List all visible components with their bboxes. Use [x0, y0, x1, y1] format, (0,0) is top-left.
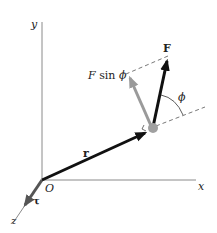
projection-dashed-line [126, 56, 168, 74]
origin-label: O [45, 182, 54, 195]
right-angle-marker [142, 125, 146, 131]
particle [148, 123, 158, 133]
x-axis-label: x [198, 180, 205, 193]
position-vector [42, 133, 145, 180]
force-vector-label: F [163, 42, 171, 55]
torque-diagram: y x z O τ r F sin ϕ F ϕ [0, 0, 217, 233]
perpendicular-component-vector [130, 78, 152, 128]
y-axis-label: y [30, 18, 38, 31]
position-vector-label: r [83, 147, 89, 160]
torque-label: τ [33, 195, 40, 206]
z-axis-label: z [10, 215, 17, 226]
angle-label: ϕ [178, 91, 186, 104]
perpendicular-component-label: F sin ϕ [87, 69, 127, 82]
force-vector [153, 61, 167, 127]
